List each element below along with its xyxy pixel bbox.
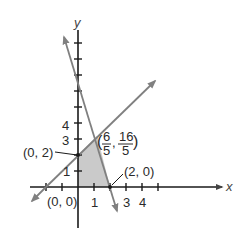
svg-text:5: 5 (103, 143, 110, 158)
svg-text:): ) (133, 133, 138, 150)
x-tick-label-3: 3 (123, 195, 130, 210)
x-tick-label-4: 4 (139, 195, 146, 210)
y-tick-label-3: 3 (62, 133, 69, 148)
vertex-2-0 (108, 185, 112, 189)
svg-text:16: 16 (119, 129, 133, 144)
svg-text:,: , (112, 135, 116, 150)
label-origin: (0, 0) (47, 194, 77, 209)
coordinate-plane: y x 1 3 4 1 3 4 (0, 0) (0, 2) (2, 0) ( 6… (0, 0, 250, 238)
svg-text:5: 5 (122, 143, 129, 158)
y-tick-label-4: 4 (62, 118, 69, 133)
line-y-equals-x-plus-2-tail (32, 187, 46, 201)
graph-figure: y x 1 3 4 1 3 4 (0, 0) (0, 2) (2, 0) ( 6… (0, 0, 250, 238)
x-tick-label-1: 1 (91, 195, 98, 210)
line-y-equals-neg4x-plus-8 (64, 37, 90, 123)
svg-text:6: 6 (103, 129, 110, 144)
label-point-2-0: (2, 0) (124, 164, 154, 179)
label-point-6-5-16-5: ( 6 5 , 16 5 ) (97, 129, 138, 158)
y-axis-label: y (73, 15, 82, 30)
y-tick-label-1: 1 (63, 164, 70, 179)
leader-0-2 (55, 152, 77, 155)
x-axis-label: x (225, 179, 233, 194)
leader-2-0 (112, 174, 123, 185)
label-point-0-2: (0, 2) (23, 145, 53, 160)
